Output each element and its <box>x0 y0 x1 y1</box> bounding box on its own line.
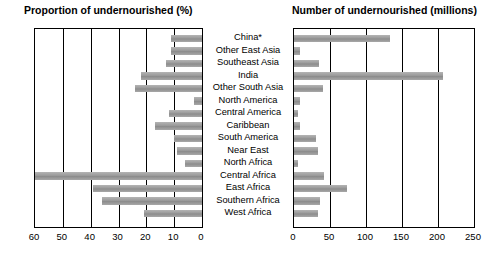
bar-row <box>294 57 474 70</box>
bar-row <box>294 45 474 58</box>
bar-row <box>294 120 474 133</box>
axis-tick-label: 50 <box>57 231 68 242</box>
left-bar-rows <box>35 29 202 227</box>
bar-row <box>35 70 202 83</box>
bar <box>169 110 202 118</box>
bar-row <box>294 95 474 108</box>
bar <box>185 160 202 168</box>
bar <box>174 135 202 143</box>
bar <box>155 122 202 130</box>
right-panel-title: Number of undernourished (millions) <box>292 4 477 16</box>
category-label: Other East Asia <box>203 44 293 57</box>
bar-row <box>294 207 474 220</box>
category-label: China* <box>203 31 293 44</box>
category-label: Southern Africa <box>203 194 293 207</box>
bar <box>194 97 202 105</box>
bar-row <box>294 157 474 170</box>
category-label: Near East <box>203 144 293 157</box>
bar <box>294 72 443 80</box>
left-x-axis: 6050403020100 <box>34 231 203 245</box>
category-label: Other South Asia <box>203 81 293 94</box>
bar-row <box>294 170 474 183</box>
category-label: South America <box>203 131 293 144</box>
right-plot-area: *Includes Taiwan Province of China <box>293 28 475 228</box>
bar-row <box>294 145 474 158</box>
axis-tick-label: 0 <box>198 231 203 242</box>
axis-tick-label: 10 <box>168 231 179 242</box>
bar <box>135 85 202 93</box>
bar-row <box>294 32 474 45</box>
bar <box>93 185 202 193</box>
axis-tick-label: 150 <box>393 231 409 242</box>
bar <box>294 172 324 180</box>
bar-row <box>294 132 474 145</box>
bar-row <box>294 182 474 195</box>
bar <box>294 185 347 193</box>
category-label: Southeast Asia <box>203 56 293 69</box>
right-bar-rows <box>294 29 474 227</box>
axis-tick-label: 20 <box>140 231 151 242</box>
category-label: Central America <box>203 106 293 119</box>
axis-tick-label: 250 <box>465 231 481 242</box>
bar-row <box>35 120 202 133</box>
left-panel-title: Proportion of undernourished (%) <box>24 4 193 16</box>
category-label: East Africa <box>203 181 293 194</box>
category-labels: China*Other East AsiaSoutheast AsiaIndia… <box>203 28 293 228</box>
category-label: Caribbean <box>203 119 293 132</box>
bar <box>141 72 202 80</box>
axis-tick-label: 40 <box>84 231 95 242</box>
category-label: West Africa <box>203 206 293 219</box>
bar <box>294 35 390 43</box>
bar <box>294 160 298 168</box>
bar <box>144 210 202 218</box>
bar-row <box>35 195 202 208</box>
bar-row <box>35 82 202 95</box>
bar <box>294 110 298 118</box>
bar <box>294 135 316 143</box>
bar-row <box>35 170 202 183</box>
bar-row <box>294 195 474 208</box>
bar <box>294 210 318 218</box>
bar <box>35 172 202 180</box>
bar <box>102 197 202 205</box>
bar-row <box>35 95 202 108</box>
bar <box>177 147 202 155</box>
bar <box>294 60 319 68</box>
axis-tick-label: 100 <box>357 231 373 242</box>
bar <box>171 35 202 43</box>
bar-row <box>35 132 202 145</box>
chart-figure: Proportion of undernourished (%) Number … <box>0 0 493 269</box>
bar-row <box>294 70 474 83</box>
bar-row <box>35 32 202 45</box>
axis-tick-label: 200 <box>429 231 445 242</box>
axis-tick-label: 50 <box>324 231 335 242</box>
bar-row <box>294 107 474 120</box>
left-plot-area <box>34 28 203 228</box>
axis-tick-label: 0 <box>290 231 295 242</box>
right-x-axis: 050100150200250 <box>293 231 475 245</box>
bar-row <box>35 57 202 70</box>
bar <box>294 85 323 93</box>
bar <box>166 60 202 68</box>
bar-row <box>35 207 202 220</box>
category-label: India <box>203 69 293 82</box>
bar <box>294 122 300 130</box>
bar-row <box>35 157 202 170</box>
bar-row <box>35 107 202 120</box>
bar <box>294 147 318 155</box>
category-label: North America <box>203 94 293 107</box>
bar <box>294 197 320 205</box>
bar-row <box>35 145 202 158</box>
bar-row <box>35 45 202 58</box>
axis-tick-label: 60 <box>29 231 40 242</box>
bar <box>294 97 300 105</box>
bar-row <box>35 182 202 195</box>
bar <box>171 47 202 55</box>
category-label: Central Africa <box>203 169 293 182</box>
axis-tick-label: 30 <box>112 231 123 242</box>
category-label: North Africa <box>203 156 293 169</box>
bar <box>294 47 300 55</box>
bar-row <box>294 82 474 95</box>
